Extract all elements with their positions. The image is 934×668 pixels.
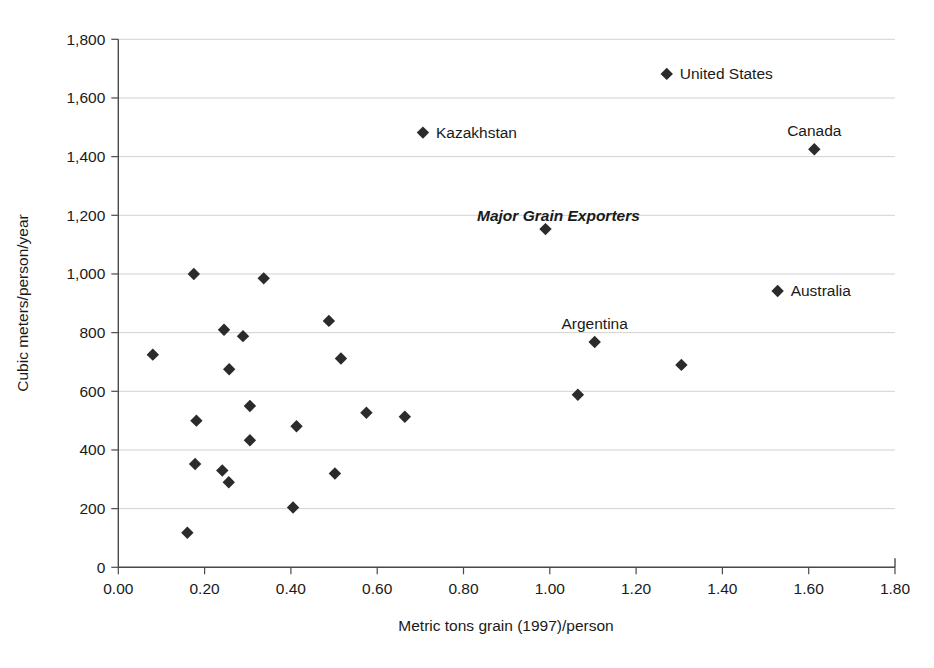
data-point-marker <box>190 414 202 426</box>
x-axis-title: Metric tons grain (1997)/person <box>398 617 613 634</box>
data-point-marker <box>218 324 230 336</box>
x-tick-label: 1.80 <box>880 580 911 597</box>
data-point-marker <box>572 389 584 401</box>
x-tick-label: 0.20 <box>190 580 221 597</box>
y-tick-label: 200 <box>79 500 105 517</box>
data-point-marker <box>223 476 235 488</box>
chart-annotation: Major Grain Exporters <box>477 207 640 224</box>
data-point-label: Canada <box>787 122 842 139</box>
y-tick-label: 1,400 <box>67 148 106 165</box>
x-tick-label: 0.80 <box>448 580 479 597</box>
data-point-marker <box>808 143 820 155</box>
y-tick-label: 1,000 <box>67 265 106 282</box>
y-tick-label: 0 <box>97 559 106 576</box>
scatter-chart: 0.000.200.400.600.801.001.201.401.601.80… <box>0 0 934 668</box>
y-tick-label: 1,800 <box>67 31 106 48</box>
data-point-marker <box>335 352 347 364</box>
y-tick-label: 1,200 <box>67 207 106 224</box>
data-point-marker <box>147 348 159 360</box>
y-tick-label: 600 <box>79 383 105 400</box>
data-point-marker <box>360 407 372 419</box>
x-tick-label: 1.00 <box>535 580 566 597</box>
x-tick-label: 0.40 <box>276 580 307 597</box>
point-labels-group: KazakhstanArgentinaUnited StatesAustrali… <box>436 65 851 332</box>
data-point-marker <box>188 268 200 280</box>
data-point-label: Kazakhstan <box>436 124 517 141</box>
data-point-marker <box>216 464 228 476</box>
data-point-marker <box>244 434 256 446</box>
tick-labels-group: 0.000.200.400.600.801.001.201.401.601.80… <box>67 31 911 598</box>
data-point-marker <box>223 363 235 375</box>
data-point-marker <box>287 501 299 513</box>
data-point-marker <box>539 223 551 235</box>
data-point-marker <box>588 336 600 348</box>
data-point-marker <box>675 359 687 371</box>
y-tick-label: 400 <box>79 441 105 458</box>
data-point-marker <box>290 420 302 432</box>
data-point-marker <box>417 126 429 138</box>
gridlines-group <box>118 39 895 567</box>
x-tick-label: 1.60 <box>794 580 825 597</box>
data-point-marker <box>329 467 341 479</box>
y-tick-label: 800 <box>79 324 105 341</box>
x-tick-label: 1.20 <box>621 580 652 597</box>
x-tick-label: 0.00 <box>103 580 134 597</box>
y-tick-label: 1,600 <box>67 89 106 106</box>
data-point-label: Argentina <box>561 315 628 332</box>
data-point-marker <box>237 330 249 342</box>
data-point-marker <box>399 411 411 423</box>
data-point-marker <box>661 68 673 80</box>
x-tick-label: 0.60 <box>362 580 393 597</box>
data-point-marker <box>181 526 193 538</box>
data-point-label: United States <box>680 65 773 82</box>
data-point-marker <box>323 315 335 327</box>
x-tick-label: 1.40 <box>707 580 738 597</box>
plot-canvas: 0.000.200.400.600.801.001.201.401.601.80… <box>0 0 934 668</box>
y-axis-title: Cubic meters/person/year <box>14 214 31 391</box>
tick-marks-group <box>111 39 895 574</box>
axes-group <box>118 39 895 567</box>
data-point-marker <box>244 400 256 412</box>
data-point-marker <box>771 285 783 297</box>
annotations-group: Major Grain Exporters <box>477 207 640 224</box>
data-point-label: Australia <box>791 282 852 299</box>
data-point-marker <box>189 458 201 470</box>
